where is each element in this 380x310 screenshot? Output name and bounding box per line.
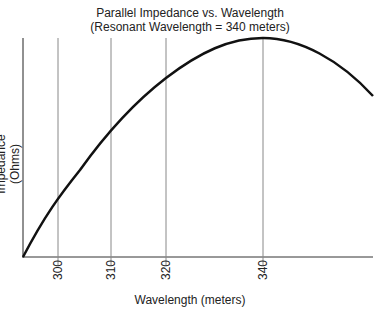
impedance-curve [23, 38, 373, 257]
x-tick-300: 300 [51, 257, 65, 283]
x-tick-310: 310 [104, 257, 118, 283]
y-axis-label: Impedance (Ohms) [0, 114, 22, 214]
x-tick-320: 320 [159, 257, 173, 283]
x-axis-label: Wavelength (meters) [0, 293, 380, 307]
x-tick-340: 340 [256, 257, 270, 283]
